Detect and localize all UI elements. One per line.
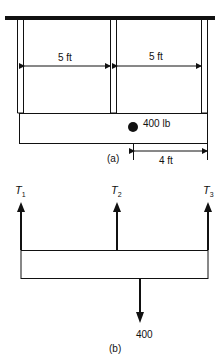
figure-b: T1 T2 T3 400 (b) <box>15 184 214 354</box>
span-right-label: 5 ft <box>149 51 163 62</box>
tension-3-label: T3 <box>203 184 214 198</box>
ceiling <box>5 16 215 20</box>
tension-1-label: T1 <box>15 184 26 198</box>
offset-label: 4 ft <box>159 155 173 166</box>
beam-a <box>20 114 208 144</box>
tension-2-label: T2 <box>111 184 122 198</box>
load-label: 400 lb <box>143 118 171 129</box>
tension-arrows <box>17 202 212 250</box>
figure-a: 5 ft 5 ft 400 lb 4 ft (a) <box>5 16 215 166</box>
load-point <box>128 122 138 132</box>
load-arrow <box>136 279 144 323</box>
rope-middle <box>111 20 117 113</box>
beam-diagram: 5 ft 5 ft 400 lb 4 ft (a) T1 T2 T3 <box>0 0 223 363</box>
caption-b: (b) <box>109 343 121 354</box>
rope-right <box>202 20 208 113</box>
rope-left <box>18 20 24 113</box>
load-label-b: 400 <box>136 329 153 340</box>
beam-b <box>21 251 208 279</box>
caption-a: (a) <box>107 153 119 164</box>
span-left-label: 5 ft <box>58 52 72 63</box>
